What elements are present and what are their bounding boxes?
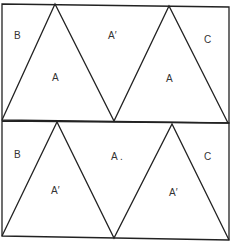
top-label-middle: A′ (108, 31, 117, 41)
bottom-panel-frame (2, 121, 229, 240)
bottom-label-middle: A . (111, 152, 123, 162)
top-label-c: C (204, 35, 211, 45)
top-panel-zigzag (2, 4, 228, 123)
bottom-panel-zigzag (2, 122, 229, 240)
bottom-label-triangle-1: A′ (51, 186, 60, 196)
bottom-label-triangle-2: A′ (169, 188, 178, 198)
bottom-label-b: B (14, 150, 21, 160)
top-label-b: B (14, 31, 21, 41)
tessellation-diagram: B A A′ A C B A′ A . A′ C (0, 0, 231, 246)
top-label-triangle-2: A (166, 74, 173, 84)
top-panel-frame (2, 4, 229, 123)
top-label-triangle-1: A (52, 73, 59, 83)
bottom-label-c: C (204, 152, 211, 162)
